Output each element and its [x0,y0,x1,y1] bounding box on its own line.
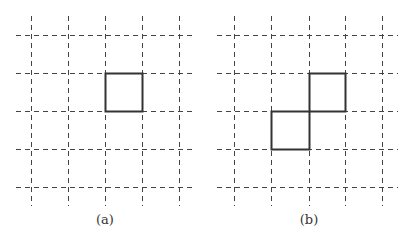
panel-b [217,16,398,206]
highlighted-cells-a [106,74,143,112]
highlighted-cell [272,112,310,150]
caption-b: (b) [300,212,318,227]
figure: (a) (b) [0,0,407,241]
panel-a [16,16,195,206]
highlighted-cell [106,74,143,112]
highlighted-cell [310,74,346,112]
highlighted-cells-b [272,74,346,150]
grid-diagram [0,0,407,241]
caption-a: (a) [96,212,114,227]
